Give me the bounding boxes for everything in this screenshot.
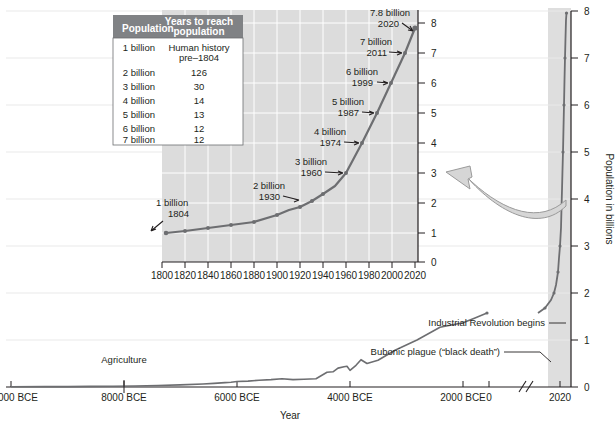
- main-xtick-3: 4000 BCE: [327, 392, 373, 403]
- inset-annotation-4b-value: 4 billion: [314, 126, 346, 137]
- inset-annotation-2b-value: 2 billion: [253, 180, 285, 191]
- population-milestones-table: Population Years to reach population 1 b…: [113, 15, 243, 145]
- inset-xtick-4: 1880: [243, 270, 266, 281]
- inset-x-ticks: [162, 262, 415, 268]
- main-x-axis-label: Year: [280, 410, 301, 421]
- main-highlight-band: [548, 8, 571, 387]
- inset-xtick-9: 1980: [358, 270, 381, 281]
- inset-ytick-5: 5: [431, 108, 437, 119]
- table-cell-population-3: 4 billion: [123, 95, 155, 106]
- main-xtick-6: 2020: [549, 392, 572, 403]
- inset-ytick-2: 2: [431, 198, 437, 209]
- inset-ytick-4: 4: [431, 138, 437, 149]
- table-cell-years-3: 14: [194, 95, 205, 106]
- inset-ytick-3: 3: [431, 168, 437, 179]
- main-xtick-2: 6000 BCE: [214, 392, 260, 403]
- inset-annotation-4b-year: 1974: [320, 137, 341, 148]
- inset-annotation-6b-year: 1999: [352, 77, 373, 88]
- figure-root: 10,000 BCE 8000 BCE 6000 BCE 4000 BCE 20…: [0, 0, 615, 431]
- inset-annotation-78b-year: 2020: [378, 18, 399, 29]
- table-cell-years-1: 126: [191, 67, 207, 78]
- main-ytick-4: 4: [584, 194, 590, 205]
- main-ytick-8: 8: [584, 6, 590, 17]
- inset-xtick-0: 1800: [151, 270, 174, 281]
- inset-xtick-7: 1940: [312, 270, 335, 281]
- inset-annotation-78b-value: 7.8 billion: [370, 7, 410, 18]
- main-xtick-0: 10,000 BCE: [0, 392, 38, 403]
- table-cell-population-4: 5 billion: [123, 109, 155, 120]
- inset-annotation-1b-year: 1804: [168, 208, 189, 219]
- population-growth-figure: 10,000 BCE 8000 BCE 6000 BCE 4000 BCE 20…: [0, 0, 615, 431]
- inset-xtick-2: 1840: [197, 270, 220, 281]
- inset-annotation-2b-year: 1930: [259, 191, 280, 202]
- inset-ytick-0: 0: [431, 257, 437, 268]
- inset-annotation-3b-value: 3 billion: [295, 156, 327, 167]
- table-cell-years-2: 30: [194, 81, 205, 92]
- inset-annotation-7b-year: 2011: [367, 47, 387, 58]
- inset-annotation-5b-year: 1987: [338, 107, 359, 118]
- main-y-ticks: [571, 11, 578, 387]
- table-cell-population-2: 3 billion: [123, 81, 155, 92]
- inset-ytick-1: 1: [431, 228, 437, 239]
- table-cell-years-6: 12: [194, 134, 205, 145]
- table-cell-years-4: 13: [194, 109, 205, 120]
- main-ytick-0: 0: [584, 382, 590, 393]
- inset-ytick-8: 8: [431, 18, 437, 29]
- inset-xtick-11: 2020: [404, 270, 427, 281]
- main-ytick-7: 7: [584, 53, 590, 64]
- inset-xtick-3: 1860: [220, 270, 243, 281]
- inset-xtick-5: 1900: [266, 270, 289, 281]
- inset-annotation-7b-value: 7 billion: [360, 36, 392, 47]
- inset-ytick-7: 7: [431, 48, 437, 59]
- inset-annotation-1b-value: 1 billion: [156, 197, 188, 208]
- annotation-bubonic-plague-label: Bubonic plague (“black death”): [371, 346, 500, 357]
- annotation-agriculture-label: Agriculture: [101, 354, 146, 365]
- table-header-years-line2: population: [173, 26, 224, 37]
- table-cell-population-0: 1 billion: [123, 42, 155, 53]
- inset-xtick-10: 2000: [381, 270, 404, 281]
- table-cell-population-5: 6 billion: [123, 123, 155, 134]
- main-y-axis-label: Population in billions: [604, 153, 615, 244]
- table-cell-years-0b: pre–1804: [179, 52, 219, 63]
- main-xtick-1: 8000 BCE: [101, 392, 147, 403]
- main-ytick-6: 6: [584, 100, 590, 111]
- main-xtick-4: 2000 BCE: [440, 392, 486, 403]
- annotation-industrial-revolution-label: Industrial Revolution begins: [428, 317, 545, 328]
- inset-y-ticks: [418, 23, 425, 262]
- table-cell-population-1: 2 billion: [123, 67, 155, 78]
- inset-annotation-1b-arrow-icon: [151, 221, 163, 231]
- main-ytick-5: 5: [584, 147, 590, 158]
- inset-annotation-6b-value: 6 billion: [346, 66, 378, 77]
- table-cell-years-5: 12: [194, 123, 205, 134]
- inset-annotation-5b-value: 5 billion: [332, 96, 364, 107]
- inset-ytick-6: 6: [431, 78, 437, 89]
- table-cell-population-6: 7 billion: [123, 134, 155, 145]
- inset-xtick-8: 1960: [335, 270, 358, 281]
- main-ytick-2: 2: [584, 288, 590, 299]
- main-xtick-5: 0: [486, 392, 492, 403]
- inset-annotation-3b-year: 1960: [301, 167, 322, 178]
- main-ytick-3: 3: [584, 241, 590, 252]
- main-ytick-1: 1: [584, 335, 590, 346]
- inset-xtick-1: 1820: [174, 270, 197, 281]
- inset-xtick-6: 1920: [289, 270, 312, 281]
